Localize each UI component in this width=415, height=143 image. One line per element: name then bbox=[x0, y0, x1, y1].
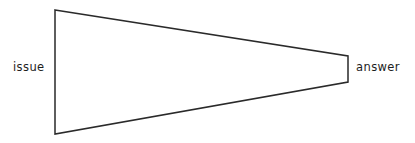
label-answer: answer bbox=[356, 62, 400, 74]
label-issue: issue bbox=[13, 62, 45, 74]
canvas-background bbox=[0, 0, 415, 143]
diagram-canvas bbox=[0, 0, 415, 143]
